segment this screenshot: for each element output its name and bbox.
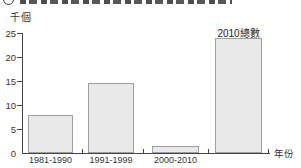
y-tick-label-10: 10 [0, 100, 16, 111]
y-tick-label-5: 5 [0, 124, 16, 135]
x-category-label-2000-2010: 2000-2010 [142, 155, 209, 165]
bar-1981-1990 [28, 115, 73, 153]
clipped-title-text [20, 0, 232, 4]
y-tick-label-20: 20 [0, 52, 16, 63]
x-tick-1 [143, 149, 144, 153]
chart-screenshot: 千個 年份 05101520251981-19901991-19992000-2… [0, 0, 301, 168]
y-tick-label-25: 25 [0, 28, 16, 39]
x-tick-0 [82, 149, 83, 153]
x-axis-unit-label: 年份 [274, 146, 294, 160]
bar-2010總數 [215, 38, 262, 153]
bar-1991-1999 [88, 83, 134, 153]
y-axis-unit-label: 千個 [10, 9, 32, 24]
x-category-label-1981-1990: 1981-1990 [18, 155, 83, 165]
y-tick-label-15: 15 [0, 76, 16, 87]
y-tick-5 [17, 129, 22, 130]
circled-number-icon [3, 0, 14, 5]
x-category-label-1991-1999: 1991-1999 [78, 155, 144, 165]
y-tick-20 [17, 57, 22, 58]
y-tick-25 [17, 33, 22, 34]
x-tick-2 [208, 149, 209, 153]
y-tick-15 [17, 81, 22, 82]
bar-annotation-2010總數: 2010總數 [215, 25, 262, 40]
y-tick-10 [17, 105, 22, 106]
x-tick-3 [268, 149, 269, 153]
y-axis-line [22, 33, 23, 153]
x-axis-line [22, 153, 270, 154]
bar-2000-2010 [152, 146, 199, 153]
y-tick-label-0: 0 [0, 148, 16, 159]
